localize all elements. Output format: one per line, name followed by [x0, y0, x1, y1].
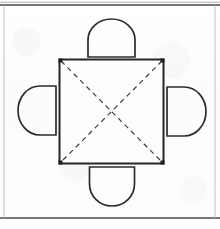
- corner-mark-tr: [161, 59, 165, 63]
- seating-diagram-canvas: [0, 0, 220, 229]
- corner-mark-bl: [59, 161, 63, 165]
- corner-mark-br: [161, 161, 165, 165]
- chair-right: [167, 87, 206, 136]
- chair-top: [88, 19, 135, 57]
- corner-mark-tl: [59, 59, 63, 63]
- chair-left: [18, 86, 56, 135]
- chair-bottom: [90, 167, 135, 206]
- seating-diagram-figure: Square table with four chairs, diagonals…: [0, 0, 220, 229]
